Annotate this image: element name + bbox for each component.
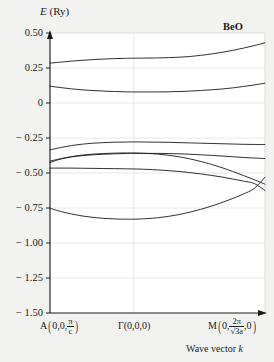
fraction-denominator-a: c xyxy=(67,326,73,336)
y-axis-title-symbol: E xyxy=(40,5,47,17)
y-tick-label: 0.50 xyxy=(0,28,43,39)
x-axis-title-prefix: Wave vector xyxy=(186,343,236,354)
y-tick-label: 0 xyxy=(0,98,43,109)
k-point-label-m: M(0,2π√3a,0) xyxy=(208,317,257,336)
fraction-denominator-m: √3a xyxy=(229,326,244,336)
x-axis-title: Wave vector k xyxy=(186,344,243,354)
k-point-coord-a: 0,0, xyxy=(52,320,67,331)
paren-open-m: ( xyxy=(218,319,221,334)
fraction-numerator-m: 2π xyxy=(229,317,244,326)
y-tick-label: − 1.00 xyxy=(0,238,43,249)
k-point-label-a: A(0,0,πc) xyxy=(40,317,79,336)
k-point-fraction-m: 2π√3a xyxy=(229,317,244,336)
y-tick-label: − 0.50 xyxy=(0,168,43,179)
k-point-symbol-a: A xyxy=(40,320,47,331)
k-point-fraction-a: πc xyxy=(67,317,73,336)
y-axis-title: E (Ry) xyxy=(40,6,69,17)
k-point-coord-m: 0, xyxy=(222,320,230,331)
k-point-coord-gamma: (0,0,0) xyxy=(124,320,151,331)
fraction-numerator-a: π xyxy=(67,317,73,326)
y-tick-label: − 0.75 xyxy=(0,203,43,214)
y-tick-label: − 0.25 xyxy=(0,133,43,144)
k-point-symbol-m: M xyxy=(208,320,217,331)
paren-close-m: ) xyxy=(253,319,256,334)
material-label: BeO xyxy=(223,22,243,33)
k-point-coord-tail-m: ,0 xyxy=(244,320,252,331)
y-axis-title-unit: (Ry) xyxy=(49,5,69,17)
y-tick-label: − 1.50 xyxy=(0,308,43,319)
y-tick-label: − 1.25 xyxy=(0,273,43,284)
k-point-label-gamma: Γ(0,0,0) xyxy=(118,321,150,331)
paren-close-a: ) xyxy=(75,319,78,334)
paren-open-a: ( xyxy=(48,319,51,334)
y-tick-label: 0.25 xyxy=(0,63,43,74)
x-axis-title-symbol: k xyxy=(239,343,243,354)
